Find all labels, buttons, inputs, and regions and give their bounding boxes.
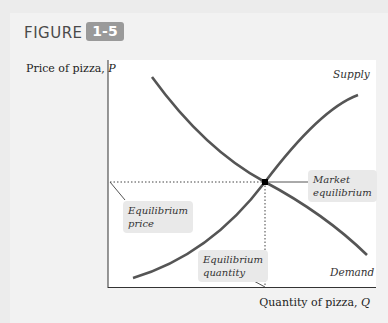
equilibrium-point <box>262 179 268 185</box>
supply-label: Supply <box>333 68 370 80</box>
equilibrium-quantity-note: Equilibriumquantity <box>198 250 268 282</box>
x-axis-label: Quantity of pizza, Q <box>259 296 370 309</box>
y-axis-label: Price of pizza, P <box>26 62 116 75</box>
market-equilibrium-note: Marketequilibrium <box>308 170 377 202</box>
equilibrium-price-note: Equilibriumprice <box>123 201 193 233</box>
demand-label: Demand <box>330 266 374 278</box>
